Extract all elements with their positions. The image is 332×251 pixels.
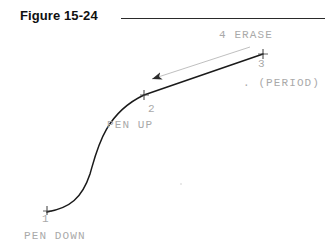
waypoint-tick-2 [140, 90, 149, 100]
label-erase: 4 ERASE [219, 29, 273, 41]
label-period: . (PERIOD) [243, 77, 320, 89]
label-waypoint-2: 2 [148, 103, 156, 115]
label-waypoint-1: 1 [42, 213, 50, 225]
label-pen-up: PEN UP [107, 119, 153, 131]
label-pen-down: PEN DOWN [24, 230, 86, 242]
pen-path-diagram [0, 0, 332, 251]
paper-speck [180, 183, 182, 185]
figure-canvas: Figure 15-24 4 ERASE 3 . (PERIOD) [0, 0, 332, 251]
label-waypoint-3: 3 [258, 58, 266, 70]
